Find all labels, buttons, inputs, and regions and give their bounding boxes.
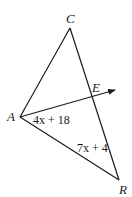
angle-label-EAR: 4x + 18 [33, 113, 70, 127]
vertex-label-R: R [118, 182, 127, 197]
side-CR [70, 28, 119, 180]
vertex-label-C: C [66, 11, 75, 26]
geometry-diagram: C A R E 4x + 18 7x + 4 [0, 0, 132, 197]
side-AC [20, 28, 70, 117]
vertex-label-A: A [6, 109, 15, 124]
point-label-E: E [91, 80, 100, 95]
angle-label-ARC: 7x + 4 [77, 141, 108, 155]
